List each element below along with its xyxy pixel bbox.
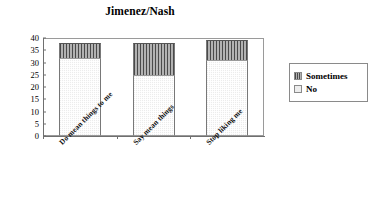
y-axis-tick-label: 35 (31, 46, 40, 55)
y-axis-tick-label: 5 (35, 120, 39, 129)
x-axis-tick-mark (190, 136, 191, 139)
y-axis-tick-mark (43, 38, 46, 39)
x-axis-tick-mark (43, 136, 44, 139)
y-axis: 4035302520151050 (20, 38, 43, 136)
y-axis-tick-label: 25 (31, 71, 40, 80)
legend-label-sometimes: Sometimes (306, 72, 348, 81)
y-axis-tick-label: 30 (31, 58, 40, 67)
y-axis-tick-label: 40 (31, 34, 40, 43)
y-axis-tick-mark (43, 74, 46, 75)
legend-swatch-no-icon (294, 85, 302, 93)
y-axis-tick-mark (43, 99, 46, 100)
legend-label-no: No (306, 85, 317, 94)
y-axis-tick-label: 0 (35, 132, 39, 141)
legend-item-sometimes[interactable]: Sometimes (294, 70, 363, 82)
y-axis-tick-mark (43, 123, 46, 124)
y-axis-tick-mark (43, 87, 46, 88)
bar-segment-sometimes[interactable] (206, 40, 248, 60)
legend-item-no[interactable]: No (294, 83, 363, 95)
y-axis-tick-label: 20 (31, 83, 40, 92)
y-axis-tick-label: 10 (31, 107, 40, 116)
chart-title: Jimenez/Nash (0, 5, 280, 17)
y-axis-tick-label: 15 (31, 95, 40, 104)
bar-segment-sometimes[interactable] (133, 43, 175, 75)
legend-swatch-sometimes-icon (294, 72, 302, 80)
chart-legend: Sometimes No (289, 63, 368, 102)
x-axis-labels: Do mean things to meSay mean thingsStop … (43, 137, 303, 223)
bar-segment-sometimes[interactable] (59, 43, 101, 58)
x-axis-tick-mark (117, 136, 118, 139)
y-axis-tick-mark (43, 62, 46, 63)
y-axis-tick-mark (43, 111, 46, 112)
y-axis-tick-mark (43, 50, 46, 51)
